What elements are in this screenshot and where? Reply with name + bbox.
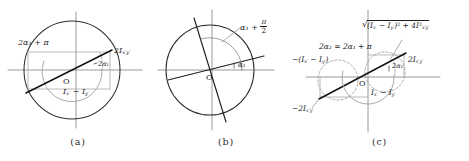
pos-shear-label-c: 2Ix′y′ — [408, 56, 423, 65]
neg-normal-diff-label-c: −(Ix′ − Iy′) — [292, 56, 329, 65]
principal-axis-1-b — [168, 56, 264, 80]
shear-label-a: 2Ix′y′ — [114, 47, 130, 55]
angle-major-label-b: α₁ + π2 — [240, 18, 267, 34]
origin-label-c: O — [359, 80, 366, 88]
leader-radical-c — [390, 40, 402, 60]
angle-inner-label-c: 2α₁ — [392, 63, 403, 70]
panel-b-diagram — [156, 0, 296, 140]
angle-tick-a — [94, 63, 97, 64]
dashed-circle-left-c — [318, 60, 358, 100]
origin-label-a: O — [63, 78, 70, 86]
angle-inner-label-a: 2α₁ — [98, 61, 109, 68]
angle-relation-label-c: 2α₂ = 2α₁ + π — [319, 43, 372, 51]
panel-a-diagram — [0, 0, 156, 140]
angle-outer-label-a: 2α₁ + π — [18, 39, 49, 47]
mohr-circle-figure: 2α₁ + π 2α₁ O 2Ix′y′ Ix′ − Iy′ (a) — [0, 0, 469, 161]
radius-expression-label-c: √(Ix′ − Iy′)2 + 4I2x′y′ — [362, 20, 429, 31]
pos-normal-diff-label-c: Ix′ − Iy′ — [371, 89, 395, 98]
panel-b: α₁ + π2 α₁ O (b) — [156, 0, 296, 161]
neg-shear-label-c: −2Ix′y′ — [292, 105, 313, 114]
panel-c: √(Ix′ − Iy′)2 + 4I2x′y′ 2α₂ = 2α₁ + π −(… — [290, 0, 469, 161]
panel-a: 2α₁ + π 2α₁ O 2Ix′y′ Ix′ − Iy′ (a) — [0, 0, 156, 161]
diameter-line-a — [26, 50, 112, 93]
normal-diff-label-a: Ix′ − Iy′ — [63, 88, 89, 96]
angle-arc-alpha1-plus-b — [201, 38, 242, 70]
caption-a: (a) — [0, 136, 156, 147]
caption-c: (c) — [290, 136, 469, 147]
origin-label-b: O — [206, 74, 213, 82]
caption-b: (b) — [156, 136, 296, 147]
angle-minor-label-b: α₁ — [238, 62, 246, 69]
